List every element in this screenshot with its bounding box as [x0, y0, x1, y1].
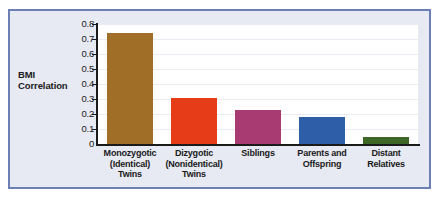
x-tick-label: Siblings — [222, 148, 294, 159]
x-tick-label-line: Parents and — [286, 148, 358, 159]
y-tick-label: 0.5 — [66, 64, 94, 74]
x-axis-tick-labels: Monozygotic(Identical)TwinsDizygotic(Non… — [98, 148, 418, 188]
y-tick-label: 0.4 — [66, 79, 94, 89]
x-tick-label: DistantRelatives — [350, 148, 422, 169]
y-tick-label: 0.2 — [66, 109, 94, 119]
x-tick-label-line: Distant — [350, 148, 422, 159]
x-tick-label: Dizygotic(Nonidentical)Twins — [158, 148, 230, 180]
bar — [235, 110, 281, 145]
y-axis-tick-labels: 0.80.70.60.50.40.30.20.10 — [66, 24, 94, 144]
bar — [107, 33, 153, 144]
x-tick-label-line: Monozygotic — [94, 148, 166, 159]
y-tick-mark — [92, 129, 97, 130]
x-tick-label-line: Twins — [158, 169, 230, 180]
bar — [171, 98, 217, 145]
y-tick-mark — [92, 69, 97, 70]
figure-frame: BMI Correlation 0.80.70.60.50.40.30.20.1… — [8, 9, 431, 189]
x-axis-line — [96, 144, 420, 146]
bar — [299, 117, 345, 144]
x-tick-label: Monozygotic(Identical)Twins — [94, 148, 166, 180]
x-tick-label-line: (Identical) — [94, 159, 166, 170]
x-tick-label-line: Relatives — [350, 159, 422, 170]
y-tick-mark — [92, 99, 97, 100]
y-tick-label: 0.7 — [66, 34, 94, 44]
y-tick-label: 0.6 — [66, 49, 94, 59]
bar — [363, 137, 409, 145]
y-tick-mark — [92, 54, 97, 55]
y-tick-mark — [92, 114, 97, 115]
bar-series — [98, 24, 418, 144]
y-tick-label: 0 — [66, 139, 94, 149]
x-tick-label-line: Siblings — [222, 148, 294, 159]
y-tick-label: 0.8 — [66, 19, 94, 29]
y-tick-mark — [92, 24, 97, 25]
y-tick-mark — [92, 39, 97, 40]
y-tick-mark — [92, 84, 97, 85]
x-tick-label: Parents andOffspring — [286, 148, 358, 169]
x-tick-label-line: (Nonidentical) — [158, 159, 230, 170]
x-tick-label-line: Offspring — [286, 159, 358, 170]
x-tick-label-line: Twins — [94, 169, 166, 180]
x-tick-label-line: Dizygotic — [158, 148, 230, 159]
y-tick-label: 0.1 — [66, 124, 94, 134]
y-tick-label: 0.3 — [66, 94, 94, 104]
